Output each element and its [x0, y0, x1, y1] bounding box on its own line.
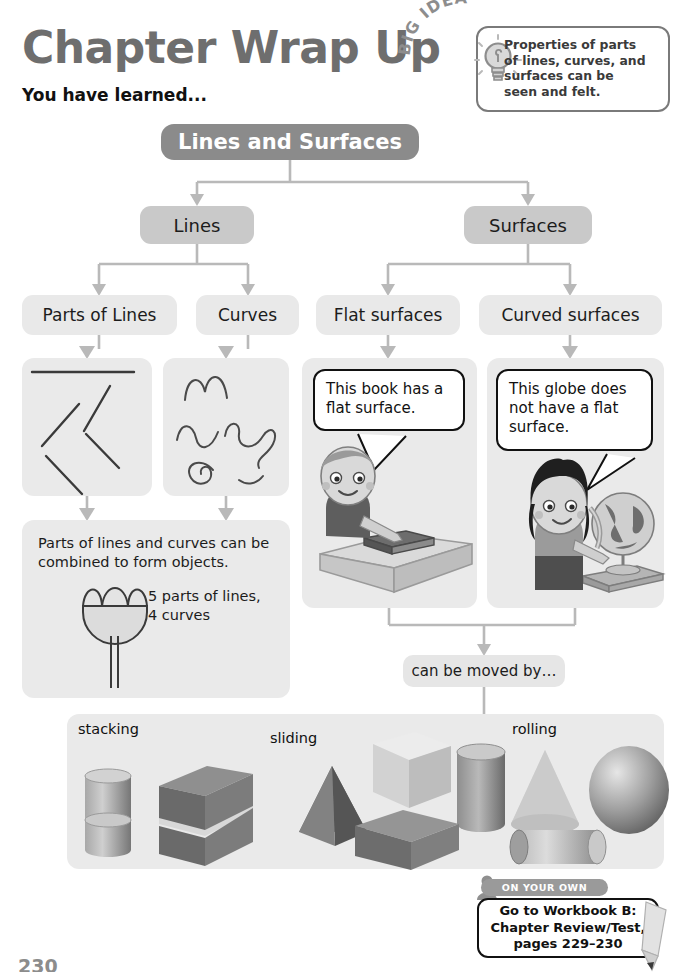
subtitle: You have learned... [22, 85, 207, 105]
globe-speech-bubble: This globe does not have a flat surface. [496, 369, 653, 451]
textbook-page: Chapter Wrap Up You have learned... BIG … [0, 0, 681, 972]
big-idea-text: Properties of parts of lines, curves, an… [504, 37, 666, 99]
flow-node-lines[interactable]: Lines [140, 206, 254, 244]
flow-node-parts-of-lines[interactable]: Parts of Lines [22, 295, 177, 335]
stacked-rectangular-prisms [159, 766, 253, 866]
stacked-cylinders [85, 769, 131, 857]
on-your-own-tab: ON YOUR OWN [481, 879, 608, 896]
rectangular-prism [355, 810, 459, 870]
solid-shapes-illustration [67, 714, 664, 869]
curves-illustration [163, 358, 289, 496]
cylinder-vertical [457, 744, 505, 832]
page-number: 230 [18, 955, 58, 972]
pencil-icon [640, 900, 681, 972]
tulip-flower-illustration [75, 578, 155, 690]
flow-node-curved-surfaces[interactable]: Curved surfaces [479, 295, 662, 335]
combine-text: Parts of lines and curves can be combine… [38, 534, 274, 572]
shapes-panel [67, 714, 664, 869]
on-your-own-box[interactable]: Go to Workbook B: Chapter Review/Test, p… [477, 898, 659, 958]
flow-node-root[interactable]: Lines and Surfaces [161, 124, 419, 160]
shape-group-label-sliding: sliding [270, 730, 317, 746]
line-segments-illustration [22, 358, 152, 496]
cone [511, 750, 579, 834]
flow-node-moved-by[interactable]: can be moved by… [403, 655, 565, 687]
lines-illustration-panel [22, 358, 152, 496]
shape-group-label-rolling: rolling [512, 721, 557, 737]
book-speech-bubble: This book has a flat surface. [313, 369, 465, 431]
shape-group-label-stacking: stacking [78, 721, 139, 737]
svg-text:BIG IDEA: BIG IDEA [395, 0, 469, 57]
cylinder-horizontal [510, 830, 606, 864]
flow-node-flat-surfaces[interactable]: Flat surfaces [316, 295, 460, 335]
curves-illustration-panel [163, 358, 289, 496]
cube [373, 732, 451, 808]
big-idea-callout: BIG IDEA Properties of parts of lines, c… [404, 8, 676, 116]
page-title: Chapter Wrap Up [22, 22, 440, 73]
flow-node-surfaces[interactable]: Surfaces [464, 206, 592, 244]
sphere [589, 746, 669, 834]
combine-count: 5 parts of lines, 4 curves [148, 587, 278, 625]
flow-node-curves[interactable]: Curves [196, 295, 299, 335]
